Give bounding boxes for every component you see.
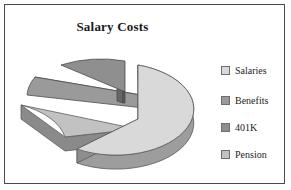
pie-slice-benefits[interactable] [27,77,153,109]
legend-item-401k[interactable]: 401K [221,120,257,134]
chart-title: Salary Costs [5,19,220,35]
legend-label-salaries: Salaries [235,65,267,76]
legend-swatch-icon-401k [221,123,230,132]
chart-legend: Salaries Benefits 401K Pension [221,63,291,173]
pie-slice-salaries[interactable] [77,65,194,169]
legend-swatch-icon-salaries [221,66,230,75]
pie-plot-area [13,43,221,183]
legend-swatch-icon-benefits [221,96,230,105]
legend-label-pension: Pension [235,149,267,160]
legend-label-benefits: Benefits [235,95,268,106]
chart-frame-border: Salary Costs [4,4,285,184]
pie-chart-graphic [13,43,221,183]
legend-item-salaries[interactable]: Salaries [221,63,267,77]
chart-screenshot: Salary Costs [0,0,291,190]
legend-label-401k: 401K [235,122,257,133]
legend-item-benefits[interactable]: Benefits [221,93,268,107]
pie-slice-401k-side-left [117,89,123,103]
pie-slice-benefits-top [27,77,153,109]
pie-slice-401k-side-right [123,91,125,103]
legend-swatch-icon-pension [221,150,230,159]
legend-item-pension[interactable]: Pension [221,147,267,161]
